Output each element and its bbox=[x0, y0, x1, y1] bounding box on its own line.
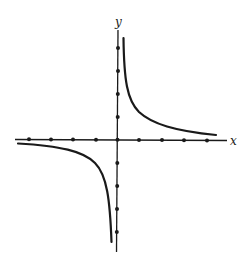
x-tick-dot bbox=[205, 138, 209, 142]
x-tick-dot bbox=[49, 137, 53, 141]
y-tick-dot bbox=[116, 115, 120, 119]
x-tick-dot bbox=[182, 138, 186, 142]
y-axis-label: y bbox=[114, 15, 122, 29]
x-tick-dot bbox=[27, 137, 31, 141]
x-tick-dot bbox=[160, 138, 164, 142]
y-tick-dot bbox=[116, 92, 120, 96]
x-tick-dot bbox=[94, 138, 98, 142]
y-tick-dot bbox=[115, 161, 119, 165]
x-tick-dot bbox=[71, 138, 75, 142]
hyperbola-lower-branch bbox=[18, 144, 112, 243]
hyperbola-plot: y x bbox=[0, 0, 249, 269]
y-tick-dot bbox=[116, 46, 120, 50]
x-axis bbox=[15, 140, 227, 141]
y-tick-dot bbox=[115, 184, 119, 188]
x-axis-label: x bbox=[230, 134, 237, 148]
hyperbola-upper-branch bbox=[124, 38, 217, 135]
y-tick-dot bbox=[115, 230, 119, 234]
x-tick-dot bbox=[137, 138, 141, 142]
y-tick-dot bbox=[115, 207, 119, 211]
origin-dot bbox=[116, 138, 120, 142]
y-tick-dot bbox=[116, 69, 120, 73]
